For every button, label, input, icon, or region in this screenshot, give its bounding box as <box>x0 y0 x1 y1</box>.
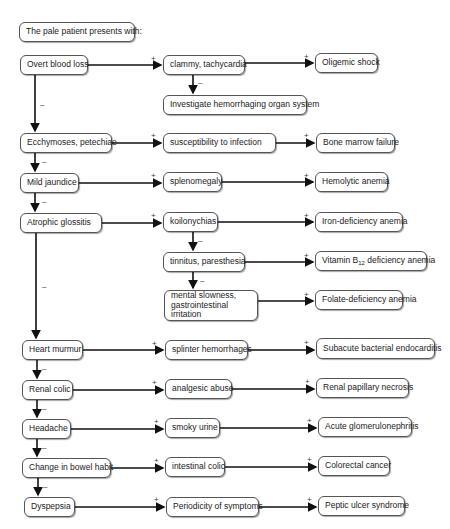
node-label: Peptic ulcer syndrome <box>325 501 409 511</box>
node-label: Heart murmur <box>29 345 81 355</box>
edge-label-positive: + <box>307 495 312 504</box>
node-dyspepsia: Dyspepsia <box>24 497 75 517</box>
edge-label-negative: – <box>198 236 202 245</box>
node-change-bowel-habit: Change in bowel habit <box>22 458 111 478</box>
node-sbe: Subacute bacterial endocarditis <box>316 338 435 359</box>
node-intestinal-colic: intestinal colic <box>165 457 225 477</box>
node-peptic-ulcer: Peptic ulcer syndrome <box>318 496 405 516</box>
node-label: Vitamin B12 deficiency anemia <box>322 256 435 267</box>
node-label: Iron-deficiency anemia <box>322 217 408 227</box>
edge-label-positive: + <box>304 211 309 220</box>
edge-label-negative: – <box>42 404 46 413</box>
edge-label-positive: + <box>154 495 159 504</box>
node-label: smoky urine <box>172 423 218 433</box>
node-smoky-urine: smoky urine <box>165 418 220 438</box>
node-label: Mild jaundice <box>27 178 77 188</box>
node-label: clammy, tachycardia <box>170 60 247 70</box>
node-renal-colic: Renal colic <box>22 380 73 400</box>
edge-label-positive: + <box>152 339 157 348</box>
node-label: Colorectal cancer <box>325 461 391 471</box>
edge-label-positive: + <box>151 54 156 63</box>
node-label: koilonychias <box>170 217 216 227</box>
node-label: Overt blood loss <box>27 60 88 70</box>
node-folate-deficiency: Folate-deficiency anemia <box>315 290 403 310</box>
edge-label-positive: + <box>304 52 309 61</box>
node-label: splinter hemorrhages <box>172 345 252 355</box>
node-atrophic-glossitis: Atrophic glossitis <box>20 213 102 233</box>
node-label: Renal colic <box>29 385 71 395</box>
edge-label-negative: – <box>42 157 46 166</box>
edge-label-negative: – <box>43 482 47 491</box>
edge-label-negative: – <box>200 276 204 285</box>
node-label: susceptibility to infection <box>170 138 262 148</box>
node-investigate: Investigate hemorrhaging organ system <box>163 95 307 115</box>
edge-label-positive: + <box>151 171 156 180</box>
node-label: Folate-deficiency anemia <box>322 295 417 305</box>
node-periodicity: Periodicity of symptoms <box>166 497 259 517</box>
node-label: Hemolytic anemia <box>322 177 390 187</box>
node-label: Periodicity of symptoms <box>173 502 263 512</box>
node-label: Bone marrow failure <box>323 138 399 148</box>
node-analgesic: analgesic abuse <box>165 379 232 399</box>
b12-prefix: Vitamin B <box>322 255 358 265</box>
edge-label-positive: + <box>305 377 310 386</box>
node-ecchymoses: Ecchymoses, petechiae <box>20 133 112 153</box>
edge-label-positive: + <box>307 416 312 425</box>
node-acute-glomerulonephritis: Acute glomerulonephritis <box>318 417 412 437</box>
node-renal-papillary-necrosis: Renal papillary necrosis <box>316 378 409 398</box>
node-label: Acute glomerulonephritis <box>325 422 419 432</box>
node-label: intestinal colic <box>172 462 225 472</box>
edge-label-positive: + <box>304 290 309 299</box>
node-label: Change in bowel habit <box>29 463 113 473</box>
node-bone-marrow-failure: Bone marrow failure <box>316 133 395 153</box>
node-label: tinnitus, paresthesia <box>170 257 246 267</box>
node-overt-blood-loss: Overt blood loss <box>20 55 88 75</box>
edge-label-negative: – <box>42 364 46 373</box>
node-headache: Headache <box>22 419 71 439</box>
node-oligemic-shock: Oligemic shock <box>315 53 378 73</box>
b12-subscript: 12 <box>358 260 365 266</box>
node-label: Renal papillary necrosis <box>323 383 413 393</box>
edge-label-negative: – <box>42 197 46 206</box>
node-label: splenomegaly <box>170 177 222 187</box>
edge-label-positive: + <box>304 171 309 180</box>
edge-label-negative: – <box>42 282 46 291</box>
edge-label-positive: + <box>151 211 156 220</box>
node-heart-murmur: Heart murmur <box>22 340 83 360</box>
node-susceptibility: susceptibility to infection <box>163 133 276 153</box>
node-label: Headache <box>29 424 68 434</box>
node-b12-deficiency: Vitamin B12 deficiency anemia <box>315 251 427 271</box>
node-iron-deficiency: Iron-deficiency anemia <box>315 212 403 232</box>
edge-label-positive: + <box>304 131 309 140</box>
node-koilonychias: koilonychias <box>163 212 218 232</box>
title-node: The pale patient presents with: <box>19 22 135 42</box>
edge-label-positive: + <box>154 417 159 426</box>
edge-label-negative: – <box>42 443 46 452</box>
node-label: Dyspepsia <box>31 502 71 512</box>
node-label: analgesic abuse <box>172 384 233 394</box>
edge-label-positive: + <box>307 455 312 464</box>
node-label: Ecchymoses, petechiae <box>27 138 117 148</box>
node-mild-jaundice: Mild jaundice <box>20 173 79 193</box>
node-label: Oligemic shock <box>322 58 380 68</box>
title-text: The pale patient presents with: <box>26 27 142 37</box>
node-tinnitus: tinnitus, paresthesia <box>163 252 245 272</box>
edge-label-positive: + <box>304 251 309 260</box>
edge-label-positive: + <box>154 456 159 465</box>
node-label: mental slowness, gastrointestinal irrita… <box>171 291 251 320</box>
node-label: Subacute bacterial endocarditis <box>323 344 442 354</box>
node-splinter: splinter hemorrhages <box>165 340 248 360</box>
b12-suffix: deficiency anemia <box>365 255 435 265</box>
node-label: Investigate hemorrhaging organ system <box>170 100 319 110</box>
node-hemolytic-anemia: Hemolytic anemia <box>315 172 388 192</box>
edge-label-negative: – <box>40 100 44 109</box>
edge-label-positive: + <box>151 131 156 140</box>
node-label: Atrophic glossitis <box>27 218 91 228</box>
edge-label-positive: + <box>304 338 309 347</box>
node-colorectal-cancer: Colorectal cancer <box>318 456 390 476</box>
node-splenomegaly: splenomegaly <box>163 172 222 192</box>
node-mental-slowness: mental slowness, gastrointestinal irrita… <box>164 290 258 321</box>
edge-label-negative: – <box>198 78 202 87</box>
edge-label-positive: + <box>152 378 157 387</box>
node-clammy: clammy, tachycardia <box>163 55 245 75</box>
